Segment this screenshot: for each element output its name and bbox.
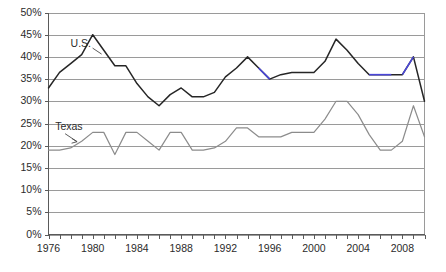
line-chart: 0%5%10%15%20%25%30%35%40%45%50% 19761980… [0,0,446,272]
y-tick-label: 0% [26,228,41,240]
y-tick-label: 40% [20,50,41,62]
x-tick-label: 1984 [125,242,149,254]
plot-frame [49,13,425,235]
series-annotation-group: U.S.Texas [55,37,101,143]
x-tick-label: 1976 [37,242,61,254]
annotation-leader-us [93,48,102,54]
y-tick-label: 15% [20,161,41,173]
series-line-us-highlight-1 [259,68,270,79]
gridline-group [49,14,425,236]
x-tick-label: 1988 [170,242,194,254]
x-tick-label: 1992 [214,242,238,254]
x-tick-label: 2004 [346,242,370,254]
series-line-us-highlight-3 [402,57,413,75]
x-tick-label: 2000 [302,242,326,254]
x-tick-label-group: 197619801984198819921996200020042008 [37,242,414,254]
y-tick-label: 5% [26,205,41,217]
x-tick-label: 1980 [81,242,105,254]
y-tick-label-group: 0%5%10%15%20%25%30%35%40%45%50% [20,6,41,240]
y-tick-label: 50% [20,6,41,18]
chart-container: 0%5%10%15%20%25%30%35%40%45%50% 19761980… [0,0,446,272]
series-line-group [49,35,425,155]
series-annotation-texas: Texas [55,120,82,132]
y-tick-mark-group [45,14,49,236]
x-tick-label: 2008 [391,242,415,254]
y-tick-label: 25% [20,117,41,129]
y-tick-label: 35% [20,72,41,84]
x-tick-label: 1996 [258,242,282,254]
y-tick-label: 30% [20,94,41,106]
series-annotation-us: U.S. [71,37,91,49]
y-tick-label: 45% [20,28,41,40]
series-line-us [49,35,425,106]
y-tick-label: 20% [20,139,41,151]
y-tick-label: 10% [20,183,41,195]
